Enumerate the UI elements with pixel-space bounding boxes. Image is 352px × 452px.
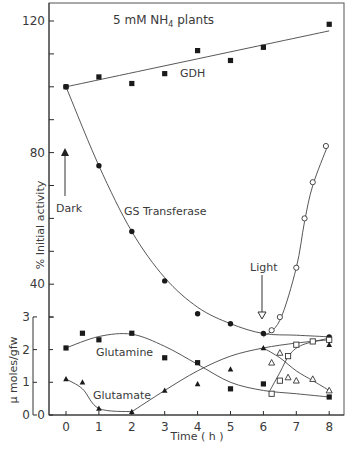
x-tick-label: 4 — [194, 420, 202, 434]
filled-square-marker — [195, 48, 200, 53]
dark-arrow-icon — [61, 148, 69, 196]
light-arrow-icon — [258, 275, 266, 319]
filled-circle-marker — [162, 278, 167, 283]
glutamate-dark-fit-curve-b — [132, 340, 329, 412]
filled-square-marker — [327, 22, 332, 27]
tick-labels: 012345678408012001230 — [22, 14, 333, 434]
filled-square-marker — [80, 331, 85, 336]
filled-triangle-marker — [228, 366, 234, 371]
filled-square-marker — [228, 58, 233, 63]
axis-ticks — [33, 21, 329, 415]
y-bottom-inner-zero: 0 — [37, 408, 45, 422]
filled-square-marker — [261, 381, 266, 386]
x-tick-label: 3 — [161, 420, 169, 434]
filled-square-marker — [129, 331, 134, 336]
filled-square-marker — [162, 71, 167, 76]
label-dark: Dark — [56, 202, 83, 215]
open-circle-marker — [294, 265, 299, 270]
open-triangle-marker — [277, 350, 283, 356]
y-bottom-tick-label: 2 — [22, 343, 30, 357]
filled-circle-marker — [96, 163, 101, 168]
x-tick-label: 2 — [128, 420, 136, 434]
open-square-marker — [310, 339, 315, 344]
open-square-marker — [294, 342, 299, 347]
open-square-marker — [327, 337, 332, 342]
filled-square-marker — [162, 355, 167, 360]
y-bottom-tick-label: 0 — [22, 408, 30, 422]
open-triangle-marker — [310, 376, 316, 382]
filled-triangle-marker — [96, 405, 102, 410]
open-circle-marker — [310, 180, 315, 185]
filled-circle-marker — [129, 229, 134, 234]
y-top-tick-label: 40 — [30, 277, 45, 291]
y-axis-label-top: % Initial activity — [34, 180, 47, 269]
filled-circle-marker — [228, 321, 233, 326]
filled-triangle-marker — [80, 379, 86, 384]
filled-triangle-marker — [162, 387, 168, 392]
y-bottom-tick-label: 3 — [22, 310, 30, 324]
y-top-tick-label: 80 — [30, 146, 45, 160]
x-tick-label: 8 — [325, 420, 333, 434]
gs-light-fit-curve — [263, 146, 327, 337]
open-triangle-marker — [269, 359, 275, 365]
x-tick-label: 6 — [260, 420, 268, 434]
filled-square-marker — [195, 360, 200, 365]
filled-square-marker — [96, 74, 101, 79]
x-tick-label: 1 — [95, 420, 103, 434]
open-triangle-marker — [293, 377, 299, 383]
open-square-marker — [277, 378, 282, 383]
chart-title: 5 mM NH4 plants — [113, 13, 214, 29]
open-circle-marker — [302, 216, 307, 221]
open-circle-marker — [277, 315, 282, 320]
label-gdh: GDH — [180, 67, 205, 80]
filled-square-marker — [96, 337, 101, 342]
x-tick-label: 0 — [62, 420, 70, 434]
open-triangle-marker — [285, 374, 291, 380]
filled-square-marker — [63, 345, 68, 350]
open-square-marker — [269, 391, 274, 396]
open-circle-marker — [269, 328, 274, 333]
x-tick-label: 5 — [227, 420, 235, 434]
open-triangle-marker — [326, 387, 332, 393]
filled-square-marker — [261, 45, 266, 50]
y-bottom-tick-label: 1 — [22, 375, 30, 389]
filled-circle-marker — [63, 84, 68, 89]
label-gs-transferase: GS Transferase — [124, 205, 207, 218]
filled-triangle-marker — [195, 381, 201, 386]
filled-square-marker — [228, 386, 233, 391]
label-glutamine: Glutamine — [96, 346, 153, 359]
chart-canvas: 5 mM NH4 plants GDH GS Transferase Dark … — [0, 0, 352, 452]
filled-square-marker — [129, 81, 134, 86]
x-tick-label: 7 — [292, 420, 300, 434]
open-circle-marker — [323, 143, 328, 148]
label-light: Light — [250, 261, 278, 274]
open-square-marker — [285, 354, 290, 359]
filled-triangle-marker — [63, 376, 69, 381]
filled-circle-marker — [195, 311, 200, 316]
filled-circle-marker — [261, 331, 266, 336]
y-axis-label-bottom: μ moles/gfw — [7, 337, 20, 404]
filled-square-marker — [327, 394, 332, 399]
y-top-tick-label: 120 — [22, 14, 45, 28]
figure: 5 mM NH4 plants GDH GS Transferase Dark … — [0, 0, 352, 452]
label-glutamate: Glutamate — [93, 389, 151, 402]
